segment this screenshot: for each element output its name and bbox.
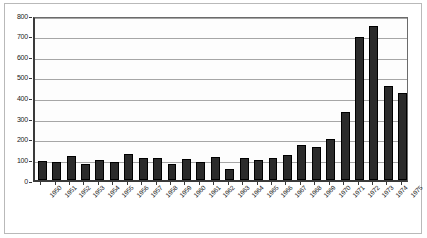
y-axis-tick-label: 100 bbox=[17, 157, 28, 165]
bar bbox=[384, 86, 393, 180]
bar bbox=[254, 160, 263, 180]
bar bbox=[139, 158, 148, 180]
x-axis-tick-label: 1965 bbox=[265, 184, 280, 199]
x-axis-tick-label: 1957 bbox=[149, 184, 164, 199]
bar bbox=[38, 161, 47, 180]
x-axis-tick-label: 1963 bbox=[236, 184, 251, 199]
x-axis-tick-label: 1973 bbox=[380, 184, 395, 199]
plot-area bbox=[33, 17, 408, 182]
x-axis-tick-label: 1962 bbox=[221, 184, 236, 199]
x-axis-tick-label: 1970 bbox=[337, 184, 352, 199]
bar bbox=[110, 162, 119, 180]
y-axis-tick-mark bbox=[29, 161, 32, 162]
x-axis-tick-label: 1974 bbox=[394, 184, 409, 199]
y-axis-tick-mark bbox=[29, 58, 32, 59]
x-axis-tick-label: 1956 bbox=[135, 184, 150, 199]
bar-chart: 0100200300400500600700800 19501951195219… bbox=[0, 0, 427, 238]
bar bbox=[398, 93, 407, 180]
bar bbox=[168, 164, 177, 181]
y-axis-tick-mark bbox=[29, 78, 32, 79]
y-axis-tick-label: 500 bbox=[17, 74, 28, 82]
bar bbox=[369, 26, 378, 180]
bar bbox=[196, 162, 205, 180]
x-axis-tick-label: 1959 bbox=[178, 184, 193, 199]
chart-screenshot: 0100200300400500600700800 19501951195219… bbox=[0, 0, 427, 238]
y-axis-tick-mark bbox=[29, 17, 32, 18]
y-axis-tick-mark bbox=[29, 140, 32, 141]
x-axis-tick-label: 1964 bbox=[250, 184, 265, 199]
x-axis-tick-label: 1950 bbox=[48, 184, 63, 199]
y-axis-tick-labels: 0100200300400500600700800 bbox=[4, 0, 28, 238]
bar bbox=[225, 169, 234, 180]
bar bbox=[124, 154, 133, 180]
x-axis-tick-label: 1955 bbox=[120, 184, 135, 199]
x-axis-tick-label: 1960 bbox=[192, 184, 207, 199]
y-axis-tick-mark bbox=[29, 120, 32, 121]
bar bbox=[52, 162, 61, 180]
x-axis-tick-label: 1969 bbox=[322, 184, 337, 199]
bar bbox=[95, 160, 104, 180]
x-axis-tick-label: 1951 bbox=[63, 184, 78, 199]
x-axis-tick-labels: 1950195119521953195419551956195719581959… bbox=[33, 184, 408, 234]
x-axis-tick-label: 1953 bbox=[91, 184, 106, 199]
bar bbox=[81, 164, 90, 180]
bar bbox=[355, 37, 364, 180]
x-axis-tick-label: 1966 bbox=[279, 184, 294, 199]
y-axis-tick-label: 800 bbox=[17, 13, 28, 21]
x-axis-tick-label: 1971 bbox=[351, 184, 366, 199]
x-axis-tick-label: 1958 bbox=[164, 184, 179, 199]
y-axis-tick-mark bbox=[29, 37, 32, 38]
x-axis-tick-label: 1961 bbox=[207, 184, 222, 199]
y-axis-tick-mark bbox=[29, 182, 32, 183]
bar bbox=[326, 139, 335, 180]
y-axis-tick-label: 600 bbox=[17, 54, 28, 62]
y-axis-tick-label: 300 bbox=[17, 116, 28, 124]
x-axis-tick-label: 1954 bbox=[106, 184, 121, 199]
bar bbox=[341, 112, 350, 180]
y-axis-tick-mark bbox=[29, 99, 32, 100]
bar bbox=[240, 158, 249, 180]
bar bbox=[312, 147, 321, 180]
bar bbox=[153, 158, 162, 180]
x-axis-tick-label: 1967 bbox=[293, 184, 308, 199]
bar bbox=[283, 155, 292, 180]
y-axis-tick-label: 400 bbox=[17, 95, 28, 103]
x-axis-tick-label: 1952 bbox=[77, 184, 92, 199]
bar bbox=[182, 159, 191, 180]
bar bbox=[297, 145, 306, 180]
y-axis-tick-label: 200 bbox=[17, 136, 28, 144]
y-axis-tick-label: 700 bbox=[17, 33, 28, 41]
bars-group bbox=[35, 18, 407, 180]
bar bbox=[269, 158, 278, 180]
bar bbox=[211, 157, 220, 180]
bar bbox=[67, 156, 76, 180]
x-axis-tick-label: 1968 bbox=[308, 184, 323, 199]
x-axis-tick-label: 1972 bbox=[366, 184, 381, 199]
y-axis-tick-label: 0 bbox=[24, 178, 28, 186]
x-axis-tick-label: 1975 bbox=[409, 184, 424, 199]
